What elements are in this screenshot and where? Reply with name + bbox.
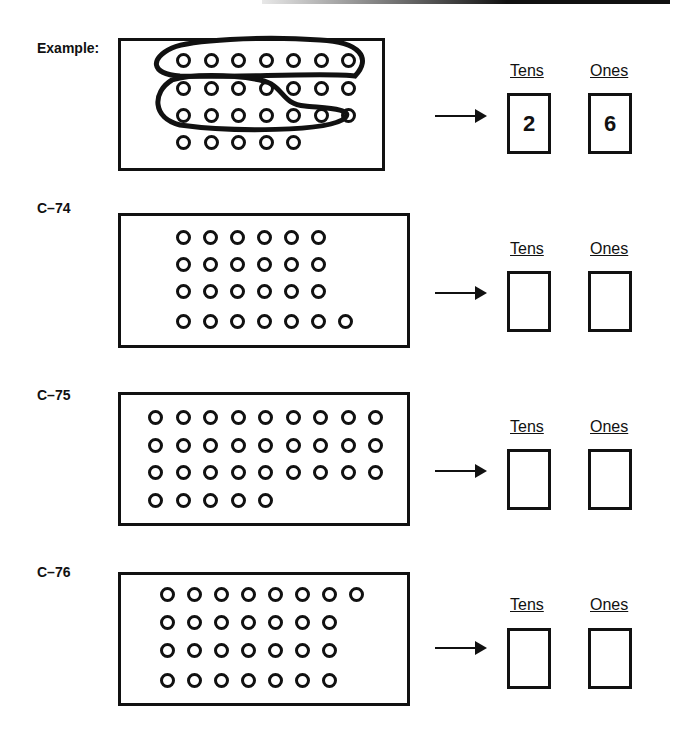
counting-circle (295, 587, 310, 602)
counting-circle (176, 438, 191, 453)
counting-circle (160, 643, 175, 658)
counting-circle (176, 465, 191, 480)
counting-circle (284, 314, 299, 329)
counting-circle (204, 81, 219, 96)
counting-circle (176, 108, 191, 123)
counting-circle (286, 465, 301, 480)
counting-circle (311, 230, 326, 245)
counting-circle (322, 587, 337, 602)
c75-ones-answer-box[interactable] (588, 449, 632, 510)
counting-circle (231, 135, 246, 150)
counting-circle (258, 438, 273, 453)
counting-circle (322, 615, 337, 630)
counting-circle (257, 257, 272, 272)
counting-circle (203, 257, 218, 272)
counting-circle (148, 493, 163, 508)
counting-circle (322, 643, 337, 658)
counting-circle (231, 465, 246, 480)
c76-ones-header: Ones (590, 596, 628, 614)
counting-circle (176, 135, 191, 150)
c74-ones-answer-box[interactable] (588, 271, 632, 332)
counting-circle (268, 643, 283, 658)
arrow-icon (435, 470, 485, 472)
counting-circle (268, 673, 283, 688)
counting-circle (259, 53, 274, 68)
counting-circle (314, 81, 329, 96)
counting-circle (204, 53, 219, 68)
counting-circle (160, 615, 175, 630)
counting-circle (368, 438, 383, 453)
example-tens-answer-box: 2 (507, 93, 551, 154)
counting-circle (241, 673, 256, 688)
counting-circle (231, 438, 246, 453)
arrow-icon (435, 292, 485, 294)
counting-circle (314, 53, 329, 68)
counting-circle (231, 53, 246, 68)
counting-circle (148, 438, 163, 453)
counting-circle (187, 643, 202, 658)
counting-circle (231, 81, 246, 96)
counting-circle (338, 314, 353, 329)
c76-tens-header: Tens (510, 596, 544, 614)
counting-circle (230, 314, 245, 329)
example-ones-header: Ones (590, 62, 628, 80)
counting-circle (160, 587, 175, 602)
example-tens-header: Tens (510, 62, 544, 80)
c76-label: C–76 (37, 564, 70, 580)
c76-tens-answer-box[interactable] (507, 628, 551, 689)
counting-circle (214, 643, 229, 658)
c75-tens-header: Tens (510, 418, 544, 436)
counting-circle (203, 438, 218, 453)
page-top-rule (262, 0, 670, 4)
counting-circle (203, 465, 218, 480)
c75-tens-answer-box[interactable] (507, 449, 551, 510)
counting-circle (204, 135, 219, 150)
counting-circle (214, 673, 229, 688)
counting-circle (230, 230, 245, 245)
example-ones-answer-box: 6 (588, 93, 632, 154)
counting-circle (284, 257, 299, 272)
counting-circle (341, 53, 356, 68)
counting-circle (176, 314, 191, 329)
counting-circle (295, 673, 310, 688)
counting-circle (341, 438, 356, 453)
counting-circle (176, 81, 191, 96)
counting-circle (311, 284, 326, 299)
counting-circle (231, 493, 246, 508)
counting-circle (176, 493, 191, 508)
counting-circle (322, 673, 337, 688)
counting-circle (230, 257, 245, 272)
counting-circle (241, 615, 256, 630)
arrow-icon (435, 115, 485, 117)
counting-circle (284, 230, 299, 245)
c75-label: C–75 (37, 387, 70, 403)
counting-circle (231, 410, 246, 425)
counting-circle (187, 615, 202, 630)
counting-circle (203, 230, 218, 245)
counting-circle (268, 587, 283, 602)
c76-ones-answer-box[interactable] (588, 628, 632, 689)
counting-circle (176, 53, 191, 68)
counting-circle (341, 81, 356, 96)
counting-circle (214, 587, 229, 602)
counting-circle (313, 438, 328, 453)
c74-ones-header: Ones (590, 240, 628, 258)
counting-circle (204, 108, 219, 123)
counting-circle (257, 230, 272, 245)
counting-circle (286, 108, 301, 123)
counting-circle (349, 587, 364, 602)
counting-circle (148, 465, 163, 480)
counting-circle (214, 615, 229, 630)
counting-circle (259, 81, 274, 96)
counting-circle (176, 410, 191, 425)
counting-circle (231, 108, 246, 123)
c74-tens-answer-box[interactable] (507, 271, 551, 332)
counting-circle (241, 587, 256, 602)
counting-circle (148, 410, 163, 425)
counting-circle (258, 493, 273, 508)
counting-circle (203, 493, 218, 508)
counting-circle (286, 410, 301, 425)
counting-circle (187, 673, 202, 688)
counting-circle (295, 643, 310, 658)
counting-circle (259, 135, 274, 150)
